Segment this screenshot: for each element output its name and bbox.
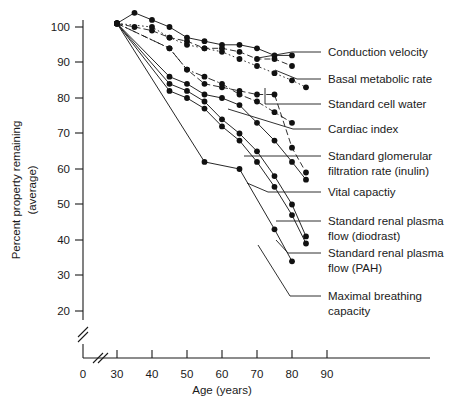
data-point bbox=[254, 92, 260, 98]
series-maximal-breathing-capacity bbox=[114, 21, 295, 265]
data-point bbox=[272, 92, 278, 98]
y-tick-label-100: 100 bbox=[51, 21, 70, 33]
data-point bbox=[202, 38, 208, 44]
data-point bbox=[289, 145, 295, 151]
y-tick-label-40: 40 bbox=[57, 234, 70, 246]
data-point bbox=[237, 166, 243, 172]
data-point bbox=[114, 21, 120, 27]
data-point bbox=[289, 63, 295, 69]
data-point bbox=[167, 45, 173, 51]
x-tick-label-0: 0 bbox=[80, 368, 86, 380]
data-point bbox=[254, 56, 260, 62]
data-point bbox=[202, 159, 208, 165]
data-point bbox=[167, 74, 173, 80]
data-point bbox=[254, 45, 260, 51]
data-point bbox=[303, 177, 309, 183]
leader-maximal-breathing-hook bbox=[258, 245, 290, 296]
series-label-vital-capacity: Vital capactiy bbox=[328, 186, 396, 198]
series-label-standard-cell-water: Standard cell water bbox=[328, 98, 427, 110]
data-point bbox=[184, 42, 190, 48]
series-label-conduction-velocity: Conduction velocity bbox=[328, 46, 428, 58]
y-axis-break-2 bbox=[78, 332, 88, 342]
data-point bbox=[254, 99, 260, 105]
data-point bbox=[272, 138, 278, 144]
data-point bbox=[184, 88, 190, 94]
data-point bbox=[237, 131, 243, 137]
data-point bbox=[254, 120, 260, 126]
data-point bbox=[289, 120, 295, 126]
y-axis-title-line1: Percent property remaining bbox=[10, 121, 22, 260]
series-standard-glomerular-filtration-rate-inulin bbox=[114, 21, 309, 176]
y-tick-label-70: 70 bbox=[57, 127, 70, 139]
data-point bbox=[272, 184, 278, 190]
data-point bbox=[184, 95, 190, 101]
y-axis-title-line2: (average) bbox=[26, 165, 38, 214]
data-point bbox=[219, 124, 225, 130]
data-point bbox=[289, 212, 295, 218]
series-label-renal-pah-2: flow (PAH) bbox=[328, 262, 382, 274]
series-label-maximal-breathing-1: Maximal breathing bbox=[328, 290, 422, 302]
series-label-standard-glomerular-2: filtration rate (inulin) bbox=[328, 165, 429, 177]
data-point bbox=[237, 138, 243, 144]
series-line bbox=[117, 23, 292, 66]
y-tick-label-60: 60 bbox=[57, 163, 70, 175]
data-point bbox=[237, 42, 243, 48]
x-tick-label-70: 70 bbox=[251, 368, 264, 380]
x-tick-label-80: 80 bbox=[286, 368, 299, 380]
y-tick-label-90: 90 bbox=[57, 56, 70, 68]
series-label-renal-diodrast-1: Standard renal plasma bbox=[328, 215, 444, 227]
data-point bbox=[184, 67, 190, 73]
y-tick-label-30: 30 bbox=[57, 269, 70, 281]
data-point bbox=[254, 63, 260, 69]
y-tick-label-20: 20 bbox=[57, 305, 70, 317]
series-layer bbox=[114, 10, 309, 264]
data-point bbox=[202, 81, 208, 87]
data-point bbox=[303, 170, 309, 176]
data-point bbox=[202, 99, 208, 105]
data-point bbox=[289, 202, 295, 208]
data-point bbox=[167, 81, 173, 87]
data-point bbox=[254, 159, 260, 165]
data-point bbox=[132, 10, 138, 16]
data-point bbox=[237, 102, 243, 108]
data-point bbox=[289, 53, 295, 59]
series-standard-renal-plasma-flow-diodrast bbox=[114, 21, 309, 240]
series-label-renal-pah-1: Standard renal plasma bbox=[328, 247, 444, 259]
series-label-maximal-breathing-2: capacity bbox=[328, 305, 370, 317]
data-point bbox=[272, 109, 278, 115]
data-point bbox=[272, 226, 278, 232]
x-tick-label-50: 50 bbox=[181, 368, 194, 380]
x-axis-title: Age (years) bbox=[192, 384, 252, 396]
y-axis bbox=[75, 20, 88, 358]
data-point bbox=[219, 49, 225, 55]
data-point bbox=[184, 81, 190, 87]
data-point bbox=[237, 49, 243, 55]
data-point bbox=[202, 45, 208, 51]
data-point bbox=[202, 106, 208, 112]
series-label-renal-diodrast-2: flow (diodrast) bbox=[328, 230, 400, 242]
data-point bbox=[202, 74, 208, 80]
data-point bbox=[272, 173, 278, 179]
series-vital-capactiy bbox=[114, 21, 309, 183]
y-tick-label-50: 50 bbox=[57, 198, 70, 210]
data-point bbox=[237, 56, 243, 62]
data-point bbox=[219, 95, 225, 101]
series-label-cardiac-index: Cardiac index bbox=[328, 123, 399, 135]
data-point bbox=[167, 24, 173, 30]
x-tick-label-30: 30 bbox=[111, 368, 124, 380]
x-tick-label-60: 60 bbox=[216, 368, 229, 380]
data-point bbox=[272, 70, 278, 76]
data-point bbox=[202, 92, 208, 98]
data-point bbox=[167, 88, 173, 94]
x-tick-label-90: 90 bbox=[321, 368, 334, 380]
series-label-standard-glomerular-1: Standard glomerular bbox=[328, 150, 432, 162]
data-point bbox=[219, 116, 225, 122]
y-tick-label-80: 80 bbox=[57, 92, 70, 104]
chart-figure: 100 90 80 70 60 50 40 30 20 0 30 40 50 6… bbox=[0, 0, 465, 397]
data-point bbox=[219, 84, 225, 90]
leader-basal-metabolic-rate-hook bbox=[275, 70, 297, 79]
data-point bbox=[167, 35, 173, 41]
series-label-basal-metabolic-rate: Basal metabolic rate bbox=[328, 73, 432, 85]
series-line bbox=[117, 23, 306, 172]
x-axis bbox=[83, 350, 430, 363]
